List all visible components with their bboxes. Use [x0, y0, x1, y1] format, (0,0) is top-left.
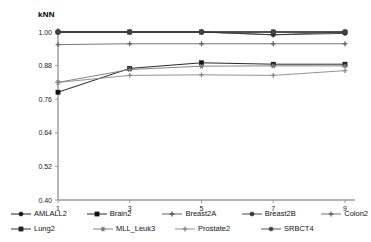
legend-row: AMLALL2Brain2Breast2ABreast2BColon2 — [10, 206, 368, 221]
data-point-marker — [100, 226, 105, 231]
legend-item-label: Prostate2 — [196, 224, 230, 234]
legend-item-label: MLL_Leuk3 — [114, 224, 155, 234]
data-point-marker — [95, 211, 99, 215]
data-point-marker — [183, 226, 188, 231]
data-point-marker — [19, 226, 23, 230]
y-tick-label: 1.00 — [38, 29, 52, 36]
data-point-marker — [271, 73, 276, 78]
series-colon2 — [56, 41, 348, 47]
legend-marker-icon — [260, 224, 282, 234]
y-tick-label: 0.88 — [38, 62, 52, 69]
legend-marker-icon — [174, 224, 196, 234]
legend-item-label: Brain2 — [108, 209, 132, 219]
legend-item-label: SRBCT4 — [282, 224, 314, 234]
legend-marker-icon — [10, 209, 32, 219]
data-point-marker — [271, 41, 276, 46]
data-point-marker — [128, 30, 132, 34]
data-point-marker — [329, 211, 334, 216]
data-point-marker — [343, 41, 348, 46]
legend-item-lung2[interactable]: Lung2 — [10, 224, 92, 234]
legend-item-mll_leuk3[interactable]: MLL_Leuk3 — [92, 224, 174, 234]
data-point-marker — [199, 30, 203, 34]
data-point-marker — [56, 30, 60, 34]
legend-item-amlall2[interactable]: AMLALL2 — [10, 209, 86, 219]
data-point-marker — [56, 42, 61, 47]
legend-marker-icon — [241, 209, 263, 219]
data-point-marker — [19, 211, 23, 215]
legend-item-label: AMLALL2 — [32, 209, 67, 219]
data-point-marker — [199, 72, 204, 77]
data-point-marker — [127, 41, 132, 46]
data-point-marker — [343, 68, 348, 73]
legend-marker-icon — [320, 209, 342, 219]
data-point-marker — [271, 30, 275, 34]
legend-marker-icon — [161, 209, 183, 219]
legend-item-breast2b[interactable]: Breast2B — [241, 209, 320, 219]
legend-item-label: Colon2 — [342, 209, 368, 219]
y-tick-label: 0.64 — [38, 129, 52, 136]
legend-marker-icon — [10, 224, 32, 234]
legend-marker-icon — [86, 209, 108, 219]
y-tick-label: 0.52 — [38, 163, 52, 170]
legend-item-label: Lung2 — [32, 224, 55, 234]
legend-item-srbct4[interactable]: SRBCT4 — [260, 224, 346, 234]
legend-marker-icon — [92, 224, 114, 234]
y-tick-label: 0.76 — [38, 96, 52, 103]
data-point-marker — [269, 226, 273, 230]
legend-item-prostate2[interactable]: Prostate2 — [174, 224, 260, 234]
data-point-marker — [56, 80, 61, 85]
data-point-marker — [127, 73, 132, 78]
data-point-marker — [250, 211, 254, 215]
data-point-marker — [199, 41, 204, 46]
legend-item-label: Breast2A — [183, 209, 216, 219]
legend-item-brain2[interactable]: Brain2 — [86, 209, 162, 219]
legend-item-breast2a[interactable]: Breast2A — [161, 209, 240, 219]
chart-container: kNN 0.400.520.640.760.881.0013579 AMLALL… — [0, 0, 371, 242]
legend-row: Lung2MLL_Leuk3Prostate2SRBCT4 — [10, 221, 368, 236]
y-tick-label: 0.40 — [38, 197, 52, 204]
data-point-marker — [56, 90, 60, 94]
legend-item-colon2[interactable]: Colon2 — [320, 209, 368, 219]
chart-legend: AMLALL2Brain2Breast2ABreast2BColon2Lung2… — [10, 206, 368, 236]
legend-item-label: Breast2B — [263, 209, 296, 219]
data-point-marker — [170, 211, 175, 216]
data-point-marker — [343, 30, 347, 34]
series-prostate2 — [56, 68, 348, 85]
